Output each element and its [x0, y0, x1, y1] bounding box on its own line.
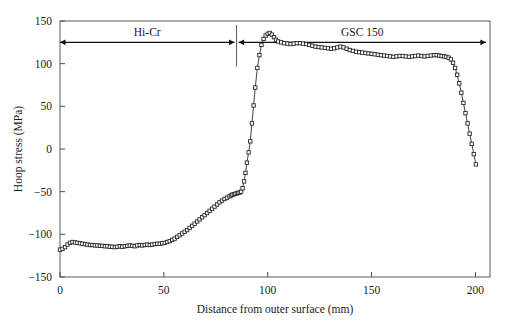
data-point-marker	[449, 58, 452, 61]
y-tick-label: −150	[28, 271, 52, 283]
region-annotations: Hi-CrGSC 150	[60, 25, 486, 66]
y-tick-label: 100	[35, 58, 53, 70]
plot-area-border	[60, 21, 490, 277]
arrow-head	[239, 39, 245, 45]
hoop-stress-chart: 050100150200 −150−100−50050100150 Hi-CrG…	[0, 0, 511, 325]
x-axis-tick-labels: 050100150200	[57, 284, 484, 296]
data-point-marker	[453, 66, 456, 69]
data-point-marker	[256, 66, 259, 69]
data-point-marker	[260, 43, 263, 46]
hi-cr-region: Hi-Cr	[60, 26, 234, 45]
y-tick-label: 0	[46, 143, 52, 155]
data-point-marker	[250, 122, 253, 125]
data-point-marker	[451, 61, 454, 64]
arrow-head	[60, 39, 66, 45]
x-axis-title: Distance from outer surface (mm)	[197, 303, 354, 316]
gsc-150-region-label: GSC 150	[341, 26, 384, 38]
y-tick-label: −100	[28, 228, 52, 240]
data-point-marker	[258, 53, 261, 56]
data-point-marker	[249, 140, 252, 143]
x-tick-label: 0	[57, 284, 63, 296]
series-0	[58, 31, 477, 251]
axis-ticks	[60, 21, 475, 277]
data-point-marker	[468, 132, 471, 135]
arrow-head	[480, 39, 486, 45]
data-point-marker	[247, 151, 250, 154]
data-point-marker	[254, 86, 257, 89]
data-point-marker	[458, 82, 461, 85]
y-tick-label: 150	[35, 15, 53, 27]
y-tick-label: −50	[34, 186, 52, 198]
data-point-marker	[455, 73, 458, 76]
data-point-marker	[470, 142, 473, 145]
x-tick-label: 50	[158, 284, 170, 296]
data-point-marker	[252, 104, 255, 107]
data-point-marker	[472, 152, 475, 155]
data-point-marker	[474, 163, 477, 166]
data-series	[58, 31, 477, 251]
chart-canvas: 050100150200 −150−100−50050100150 Hi-CrG…	[0, 0, 511, 325]
series-line	[60, 33, 476, 250]
hi-cr-region-label: Hi-Cr	[134, 26, 161, 38]
data-point-marker	[460, 91, 463, 94]
data-point-marker	[242, 180, 245, 183]
arrow-head	[229, 39, 235, 45]
data-point-marker	[239, 190, 242, 193]
plot-frame	[60, 21, 490, 277]
data-point-marker	[464, 111, 467, 114]
data-point-marker	[462, 101, 465, 104]
y-axis-tick-labels: −150−100−50050100150	[28, 15, 52, 283]
y-tick-label: 50	[41, 100, 53, 112]
x-tick-label: 150	[363, 284, 381, 296]
data-point-marker	[244, 171, 247, 174]
x-tick-label: 100	[259, 284, 277, 296]
data-point-marker	[262, 37, 265, 40]
x-tick-label: 200	[467, 284, 485, 296]
y-axis-title: Hoop stress (MPa)	[12, 106, 25, 192]
data-point-marker	[241, 187, 244, 190]
data-point-marker	[466, 122, 469, 125]
data-point-marker	[245, 161, 248, 164]
